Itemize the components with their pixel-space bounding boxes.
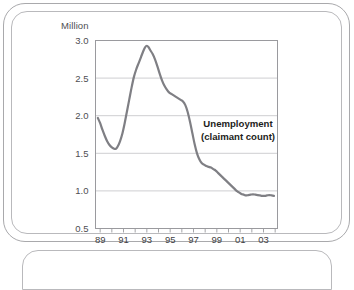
y-axis-tick-labels: 3.02.52.01.51.00.5 xyxy=(75,35,88,234)
series-annotation-label: Unemployment (claimant count) xyxy=(193,118,283,143)
x-axis-tick-labels: 8991939597990103 xyxy=(95,234,269,245)
x-tick-label: 89 xyxy=(95,234,106,245)
y-tick-label: 2.0 xyxy=(75,110,88,121)
y-tick-label: 0.5 xyxy=(75,223,88,234)
gridlines xyxy=(96,41,278,191)
x-tick-label: 91 xyxy=(118,234,129,245)
x-tick-label: 97 xyxy=(188,234,199,245)
x-tick-label: 95 xyxy=(165,234,176,245)
x-axis-ticks xyxy=(100,229,275,233)
x-tick-label: 93 xyxy=(142,234,153,245)
y-tick-label: 1.0 xyxy=(75,185,88,196)
y-tick-label: 2.5 xyxy=(75,73,88,84)
annotation-line-1: Unemployment xyxy=(193,118,283,131)
x-tick-label: 99 xyxy=(212,234,223,245)
x-tick-label: 03 xyxy=(258,234,269,245)
y-tick-label: 3.0 xyxy=(75,35,88,46)
y-tick-label: 1.5 xyxy=(75,148,88,159)
annotation-line-2: (claimant count) xyxy=(193,131,283,144)
x-tick-label: 01 xyxy=(235,234,246,245)
